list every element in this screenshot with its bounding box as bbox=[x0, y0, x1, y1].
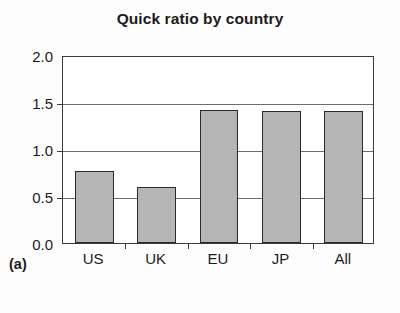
x-tick-label-us: US bbox=[62, 250, 124, 267]
y-tick-label: 1.0 bbox=[3, 142, 53, 159]
x-tick-label-eu: EU bbox=[187, 250, 249, 267]
x-tick-mark bbox=[188, 243, 189, 249]
x-tick-mark bbox=[250, 243, 251, 249]
y-tick-mark bbox=[57, 104, 63, 105]
panel-label: (a) bbox=[9, 256, 27, 272]
y-tick-label: 0.0 bbox=[3, 236, 53, 253]
x-tick-label-all: All bbox=[312, 250, 374, 267]
figure-panel: Quick ratio by country 0.00.51.01.52.0 U… bbox=[0, 0, 400, 313]
bar-jp[interactable] bbox=[262, 111, 301, 243]
x-tick-label-uk: UK bbox=[124, 250, 186, 267]
x-axis: USUKEUJPAll bbox=[62, 250, 374, 274]
y-tick-label: 1.5 bbox=[3, 95, 53, 112]
x-tick-mark bbox=[313, 243, 314, 249]
gridline bbox=[63, 104, 373, 105]
x-tick-mark bbox=[125, 243, 126, 249]
bar-uk[interactable] bbox=[137, 187, 176, 243]
y-tick-label: 0.5 bbox=[3, 189, 53, 206]
y-tick-label: 2.0 bbox=[3, 48, 53, 65]
bar-eu[interactable] bbox=[200, 110, 239, 243]
bar-all[interactable] bbox=[324, 111, 363, 243]
y-tick-mark bbox=[57, 151, 63, 152]
bar-us[interactable] bbox=[75, 171, 114, 243]
x-tick-label-jp: JP bbox=[249, 250, 311, 267]
plot-inner bbox=[63, 57, 373, 243]
plot-area bbox=[62, 56, 374, 244]
y-tick-mark bbox=[57, 198, 63, 199]
